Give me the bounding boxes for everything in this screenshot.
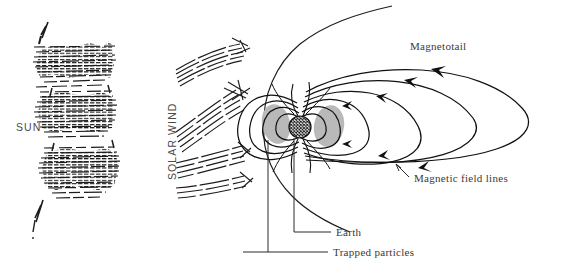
- earth-group: [289, 116, 311, 138]
- solar-wind-label: SOLAR WIND: [166, 102, 178, 180]
- solar-wind-bundle-3: [176, 142, 251, 178]
- sun-band-3: [38, 147, 120, 198]
- sun-band-1: [33, 41, 118, 87]
- leader-arrowhead-field-lines: [396, 164, 401, 171]
- sun-group: [32, 22, 120, 239]
- leader-earth: [294, 138, 331, 232]
- earth-label: Earth: [336, 226, 362, 238]
- solar-wind-bundle-1: [176, 38, 250, 86]
- magnetic-field-lines-label: Magnetic field lines: [414, 172, 508, 184]
- leader-trapped-particles: [268, 140, 328, 252]
- sun-label: SUN: [16, 121, 41, 133]
- solar-wind-group: [176, 38, 253, 198]
- diagram-canvas: SUN: [0, 0, 572, 269]
- sun-band-2: [34, 91, 117, 137]
- magnetosphere-diagram: SUN: [0, 0, 572, 269]
- trapped-particles-label: Trapped particles: [333, 246, 414, 258]
- magnetotail-label: Magnetotail: [410, 40, 466, 52]
- earth-body: [289, 116, 311, 138]
